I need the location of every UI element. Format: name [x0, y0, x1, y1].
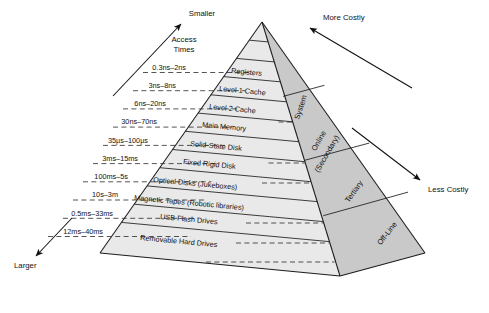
- access-time-usb-flash-drives: 0.5ms–33ms: [71, 209, 113, 218]
- access-time-level-2-cache: 6ns–20ns: [134, 99, 166, 108]
- access-time-fixed-rigid-disk: 3ms–15ms: [102, 154, 138, 163]
- access-time-removable-hard-drives: 12ms–40ms: [63, 227, 103, 236]
- diagram-canvas: Registers Level 1 Cache Level 2 Cache Ma…: [0, 0, 489, 313]
- axis-label-smaller: Smaller: [189, 9, 216, 18]
- axis-label-more-costly: More Costly: [323, 13, 365, 22]
- larger-arrow-line: [36, 218, 72, 256]
- access-time-registers: 0.3ns–2ns: [152, 63, 186, 72]
- access-time-main-memory: 30ns–70ns: [121, 117, 157, 126]
- axis-label-less-costly: Less Costly: [428, 185, 468, 194]
- axis-label-times: Times: [174, 45, 195, 54]
- access-time-magnetic-tapes: 10s–3m: [92, 190, 118, 199]
- axis-label-larger: Larger: [14, 261, 37, 270]
- memory-hierarchy-pyramid: Registers Level 1 Cache Level 2 Cache Ma…: [0, 0, 489, 313]
- access-time-optical-disks: 100ms–5s: [94, 172, 128, 181]
- more-costly-arrow-line: [310, 28, 412, 88]
- access-time-solid-state-disk: 35µs–100µs: [108, 136, 148, 145]
- access-time-level-1-cache: 3ns–8ns: [148, 81, 176, 90]
- axis-label-access: Access: [171, 35, 196, 44]
